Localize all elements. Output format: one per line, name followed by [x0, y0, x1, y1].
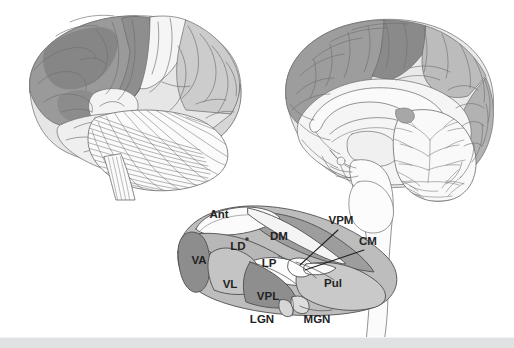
- brain-anatomy-figure: Ant DM LD VA LP VL VPL Pul VPM CM LGN MG…: [0, 0, 514, 348]
- label-va: VA: [191, 254, 206, 266]
- label-vpl: VPL: [257, 290, 279, 302]
- label-ld: LD: [230, 240, 245, 252]
- label-mgn: MGN: [304, 313, 331, 325]
- label-cm: CM: [359, 235, 377, 247]
- figure-canvas: Ant DM LD VA LP VL VPL Pul VPM CM LGN MG…: [0, 0, 514, 348]
- footer-bar: [0, 337, 514, 348]
- label-lp: LP: [262, 257, 277, 269]
- dm-ant-boundary-dot: [245, 237, 249, 241]
- footer-hairline: [0, 337, 514, 338]
- label-ant: Ant: [209, 208, 228, 220]
- label-pul: Pul: [324, 277, 342, 289]
- midsagittal-mamillary-body: [337, 157, 345, 165]
- label-lgn: LGN: [250, 313, 274, 325]
- label-vpm: VPM: [329, 214, 354, 226]
- label-vl: VL: [223, 278, 238, 290]
- label-dm: DM: [270, 230, 288, 242]
